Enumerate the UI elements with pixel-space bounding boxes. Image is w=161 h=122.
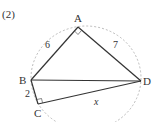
edge-label-AB: 6: [45, 39, 50, 50]
vertex-label-D: D: [143, 75, 151, 87]
diagram: (2) A B C D 6 7 2 x: [0, 0, 161, 122]
edge-BC: [31, 80, 38, 104]
vertex-label-B: B: [19, 74, 26, 86]
edge-CD: [38, 81, 141, 104]
problem-number: (2): [2, 8, 15, 21]
edge-label-AD: 7: [113, 39, 118, 50]
geometry-figure: (2) A B C D 6 7 2 x: [0, 0, 161, 122]
edge-label-BC: 2: [25, 88, 30, 99]
vertex-label-C: C: [34, 107, 41, 119]
vertex-label-A: A: [74, 12, 82, 24]
edge-AB: [31, 27, 78, 80]
right-angle-mark-A: [75, 31, 82, 35]
edge-BD: [31, 80, 141, 81]
edge-label-CD: x: [93, 96, 99, 107]
edge-AD: [78, 27, 141, 81]
